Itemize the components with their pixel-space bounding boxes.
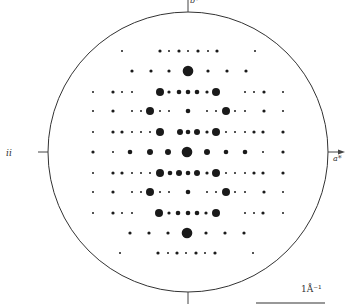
diffraction-spot <box>131 91 133 93</box>
diffraction-spot <box>156 251 159 254</box>
diffraction-spot <box>262 90 265 93</box>
scale-bar-label: 1Å⁻¹ <box>301 284 322 294</box>
a-star-axis-label: a* <box>333 154 342 163</box>
diffraction-spot <box>253 212 255 214</box>
diffraction-spot <box>205 90 208 93</box>
diffraction-spot <box>262 109 265 112</box>
diffraction-spot <box>112 151 114 153</box>
diffraction-spot <box>206 110 208 112</box>
diffraction-spot <box>186 190 191 195</box>
left-axis-label: ii <box>6 148 12 158</box>
diffraction-spot <box>168 171 173 176</box>
diffraction-spot <box>205 171 208 174</box>
diffraction-spot <box>254 50 256 52</box>
diffraction-spot <box>223 231 226 234</box>
diffraction-spot <box>111 171 114 174</box>
diffraction-spot <box>261 171 264 174</box>
b-star-axis-label: b* <box>190 0 199 5</box>
diffraction-spot <box>121 91 123 93</box>
diffraction-spot <box>222 107 230 115</box>
diffraction-spot <box>253 91 255 93</box>
diffraction-spot <box>225 69 228 72</box>
diffraction-spot <box>215 49 218 52</box>
diffraction-spot <box>262 190 265 193</box>
diffraction-spot <box>185 252 187 254</box>
diffraction-spot <box>281 130 284 133</box>
diffraction-spot <box>168 50 170 52</box>
diffraction-spot <box>111 130 114 133</box>
diffraction-spot <box>261 211 264 214</box>
diffraction-spot <box>243 150 248 155</box>
diffraction-spot <box>212 169 220 177</box>
diffraction-spot <box>140 110 142 112</box>
diffraction-spot <box>175 251 178 254</box>
diffraction-spot <box>182 147 193 158</box>
diffraction-spot <box>155 209 163 217</box>
diffraction-spots <box>91 49 284 254</box>
diffraction-spot <box>244 191 246 193</box>
diffraction-spot <box>204 149 210 155</box>
diffraction-spot <box>156 88 164 96</box>
diffraction-spot <box>130 69 133 72</box>
diffraction-spot <box>120 130 123 133</box>
diffraction-spot <box>92 131 94 133</box>
diffraction-spot <box>252 252 254 254</box>
diffraction-spot <box>206 191 208 193</box>
diffraction-spot <box>204 211 207 214</box>
diffraction-spot <box>121 212 123 214</box>
diffraction-spot <box>111 190 114 193</box>
diffraction-spot <box>215 191 217 193</box>
diffraction-spot <box>204 252 206 254</box>
diffraction-spot <box>196 49 199 52</box>
diffraction-spot <box>147 231 150 234</box>
diffraction-spot <box>131 191 133 193</box>
diffraction-spot <box>167 69 170 72</box>
diffraction-spot <box>166 231 169 234</box>
diffraction-spot <box>207 50 209 52</box>
diffraction-spot <box>212 209 220 217</box>
diffraction-spot <box>147 149 153 155</box>
diffraction-spot <box>149 69 152 72</box>
diffraction-spot <box>92 110 94 112</box>
diffraction-spot <box>252 171 255 174</box>
diffraction-spot <box>194 251 197 254</box>
diffraction-spot <box>282 110 284 112</box>
diffraction-spot <box>282 91 284 93</box>
diffraction-spot <box>111 109 114 112</box>
diffraction-spot <box>140 131 142 133</box>
diffraction-spot <box>244 131 246 133</box>
diffraction-spot <box>282 212 284 214</box>
diffraction-spot <box>205 130 208 133</box>
diffraction-spot <box>128 150 133 155</box>
diffraction-spot <box>234 131 236 133</box>
diffraction-spot <box>146 107 154 115</box>
diffraction-figure <box>0 0 345 304</box>
diffraction-spot <box>225 131 227 133</box>
diffraction-spot <box>242 231 245 234</box>
diffraction-spot <box>131 110 133 112</box>
diffraction-spot <box>140 191 142 193</box>
diffraction-spot <box>222 188 230 196</box>
diffraction-spot <box>261 130 264 133</box>
diffraction-spot <box>146 188 154 196</box>
diffraction-spot <box>167 90 170 93</box>
diffraction-spot <box>168 191 170 193</box>
diffraction-spot <box>244 212 246 214</box>
diffraction-spot <box>167 252 169 254</box>
diffraction-spot <box>194 129 200 135</box>
diffraction-spot <box>281 171 284 174</box>
diffraction-spot <box>128 231 131 234</box>
diffraction-spot <box>195 90 200 95</box>
diffraction-spot <box>224 150 229 155</box>
diffraction-spot <box>131 131 133 133</box>
diffraction-spot <box>182 228 193 239</box>
diffraction-spot <box>149 131 151 133</box>
diffraction-spot <box>92 191 94 193</box>
diffraction-spot <box>244 91 246 93</box>
diffraction-spot <box>111 211 114 214</box>
diffraction-spot <box>176 211 181 216</box>
diffraction-spot <box>252 130 255 133</box>
diffraction-spot <box>159 191 161 193</box>
diffraction-spot <box>212 128 220 136</box>
diffraction-spot <box>120 171 123 174</box>
